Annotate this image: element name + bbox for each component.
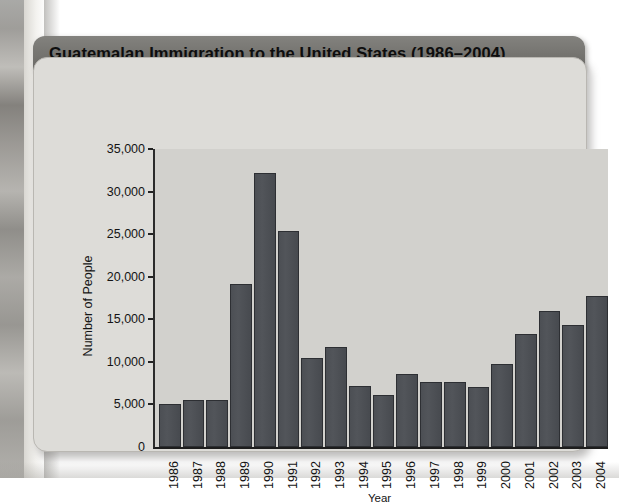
- bar-1987: [183, 400, 205, 447]
- x-tick-label: 1995: [380, 461, 394, 489]
- x-tick-label: 1989: [238, 461, 252, 489]
- y-tick-label-10000: 10,000: [107, 355, 145, 369]
- y-tick-label-30000: 30,000: [107, 185, 145, 199]
- bar-1988: [206, 400, 228, 447]
- y-tick-label-25000: 25,000: [107, 227, 145, 241]
- x-tick-label: 1999: [475, 461, 489, 489]
- chart-card: Number of People 05,00010,00015,00020,00…: [33, 57, 587, 452]
- y-tick-mark-25000: [148, 233, 153, 235]
- y-tick-mark-20000: [148, 276, 153, 278]
- y-tick-label-5000: 5,000: [114, 397, 145, 411]
- y-tick-mark-30000: [148, 191, 153, 193]
- x-axis-label: Year: [153, 492, 606, 504]
- y-axis-label: Number of People: [81, 236, 95, 376]
- x-tick-label: 2001: [523, 461, 537, 489]
- bar-1994: [349, 386, 371, 447]
- x-tick-label: 2004: [594, 461, 608, 489]
- x-tick-label: 2003: [570, 461, 584, 489]
- y-tick-label-35000: 35,000: [107, 142, 145, 156]
- x-tick-label: 1992: [309, 461, 323, 489]
- bar-series: [155, 149, 608, 447]
- plot-area: [153, 149, 608, 449]
- bar-1991: [278, 231, 300, 447]
- bar-2004: [586, 296, 608, 447]
- y-tick-mark-15000: [148, 318, 153, 320]
- x-tick-label: 2002: [547, 461, 561, 489]
- bar-1998: [444, 382, 466, 447]
- x-tick-label: 1998: [452, 461, 466, 489]
- x-tick-label: 1996: [404, 461, 418, 489]
- bar-1986: [159, 404, 181, 447]
- bar-1999: [468, 387, 490, 447]
- bar-1997: [420, 382, 442, 447]
- y-tick-label-20000: 20,000: [107, 270, 145, 284]
- bar-1989: [230, 284, 252, 447]
- x-tick-label: 2000: [499, 461, 513, 489]
- x-tick-label: 1987: [191, 461, 205, 489]
- y-tick-mark-5000: [148, 403, 153, 405]
- y-tick-mark-10000: [148, 361, 153, 363]
- y-tick-mark-35000: [148, 148, 153, 150]
- x-tick-label: 1994: [357, 461, 371, 489]
- bar-2003: [562, 325, 584, 447]
- x-tick-label: 1990: [262, 461, 276, 489]
- bar-1996: [396, 374, 418, 447]
- bar-1990: [254, 173, 276, 447]
- x-tick-label: 1988: [214, 461, 228, 489]
- bar-1993: [325, 347, 347, 447]
- bar-1992: [301, 358, 323, 447]
- bar-1995: [373, 395, 395, 447]
- y-tick-label-0: 0: [138, 440, 145, 454]
- x-tick-label: 1997: [428, 461, 442, 489]
- y-tick-label-15000: 15,000: [107, 312, 145, 326]
- bar-2000: [491, 364, 513, 447]
- bar-2001: [515, 334, 537, 447]
- y-axis: Number of People 05,00010,00015,00020,00…: [67, 149, 153, 449]
- x-tick-label: 1991: [286, 461, 300, 489]
- x-tick-label: 1993: [333, 461, 347, 489]
- bar-2002: [539, 311, 561, 447]
- x-tick-label: 1986: [167, 461, 181, 489]
